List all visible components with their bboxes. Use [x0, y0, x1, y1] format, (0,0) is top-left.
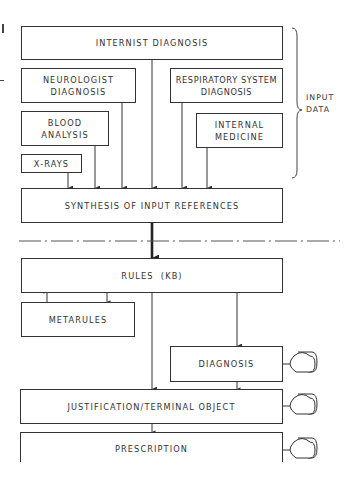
- input-data-label-line2: DATA: [306, 104, 334, 116]
- margin-mark: [0, 80, 4, 81]
- terminal-icons: [282, 352, 317, 458]
- synthesis-box: SYNTHESIS OF INPUT REFERENCES: [21, 188, 283, 223]
- internist-diagnosis-label: INTERNIST DIAGNOSIS: [96, 37, 209, 49]
- diagnosis-box: DIAGNOSIS: [170, 346, 283, 382]
- justification-label: JUSTIFICATION/TERMINAL OBJECT: [67, 401, 235, 413]
- justification-box: JUSTIFICATION/TERMINAL OBJECT: [20, 389, 283, 424]
- rules-kb-label: RULES (KB): [121, 270, 182, 282]
- rules-kb-box: RULES (KB): [21, 258, 283, 293]
- internal-medicine-box: INTERNAL MEDICINE: [196, 113, 283, 148]
- margin-mark: [2, 24, 4, 33]
- prescription-box: PRESCRIPTION: [20, 432, 283, 462]
- internist-diagnosis-box: INTERNIST DIAGNOSIS: [21, 26, 283, 60]
- neurologist-label-line2: DIAGNOSIS: [43, 86, 114, 98]
- input-data-label: INPUT DATA: [306, 92, 334, 116]
- blood-analysis-box: BLOOD ANALYSIS: [21, 111, 109, 146]
- metarules-label: METARULES: [49, 314, 108, 326]
- input-data-label-line1: INPUT: [306, 92, 334, 104]
- xrays-label: X-RAYS: [34, 158, 69, 170]
- xrays-box: X-RAYS: [21, 154, 82, 173]
- blood-label-line1: BLOOD: [41, 117, 88, 129]
- synthesis-label: SYNTHESIS OF INPUT REFERENCES: [65, 200, 240, 212]
- input-data-brace: [292, 28, 302, 178]
- respiratory-label-line1: RESPIRATORY SYSTEM: [176, 74, 277, 86]
- metarules-box: METARULES: [21, 302, 135, 337]
- respiratory-label-line2: DIAGNOSIS: [176, 86, 277, 98]
- respiratory-diagnosis-box: RESPIRATORY SYSTEM DIAGNOSIS: [170, 68, 283, 103]
- prescription-label: PRESCRIPTION: [115, 443, 188, 455]
- blood-label-line2: ANALYSIS: [41, 129, 88, 141]
- internal-label-line1: INTERNAL: [215, 119, 265, 131]
- display-terminal-icon: [282, 438, 317, 458]
- display-terminal-icon: [282, 394, 317, 414]
- diagnosis-label: DIAGNOSIS: [199, 358, 255, 370]
- internal-label-line2: MEDICINE: [215, 131, 265, 143]
- display-terminal-icon: [282, 352, 317, 372]
- neurologist-diagnosis-box: NEUROLOGIST DIAGNOSIS: [21, 68, 136, 103]
- diagram-canvas: INTERNIST DIAGNOSIS NEUROLOGIST DIAGNOSI…: [0, 0, 358, 483]
- neurologist-label-line1: NEUROLOGIST: [43, 74, 114, 86]
